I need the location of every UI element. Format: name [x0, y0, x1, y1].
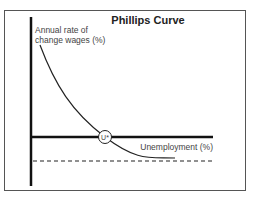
y-axis-label-line2: change wages (%) — [35, 35, 106, 45]
y-axis-label-line1: Annual rate of — [35, 25, 89, 35]
natural-rate-label: U* — [101, 134, 109, 141]
chart-title: Phillips Curve — [111, 14, 184, 26]
phillips-curve-chart: Phillips Curve Annual rate of change wag… — [0, 0, 256, 200]
x-axis-label: Unemployment (%) — [140, 142, 213, 152]
